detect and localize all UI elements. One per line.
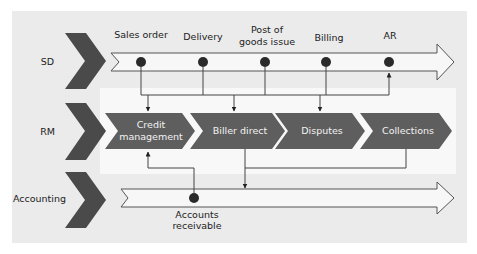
sd-event-dot (321, 57, 331, 67)
rm-step-label: management (119, 131, 183, 142)
accounting-event-label: receivable (172, 220, 221, 231)
sd-event-label: Billing (314, 32, 343, 43)
lane-label-accounting: Accounting (13, 193, 66, 204)
rm-step-label: Credit (137, 119, 166, 130)
sd-event-label: Post of (251, 24, 284, 35)
rm-step-label: Disputes (301, 125, 343, 136)
lane-label-rm: RM (40, 126, 55, 137)
sd-event-label: Sales order (114, 29, 168, 40)
sd-event-label: Delivery (183, 31, 223, 42)
sd-event-label: goods issue (239, 36, 295, 47)
sd-event-dot (384, 57, 394, 67)
process-diagram: SD RM Accounting Credit management Bille… (0, 0, 477, 254)
sd-event-label: AR (383, 30, 396, 41)
sd-event-dot (260, 57, 270, 67)
sd-event-dot (136, 57, 146, 67)
lane-label-sd: SD (41, 56, 54, 67)
rm-step-label: Collections (382, 125, 434, 136)
rm-step-label: Biller direct (213, 125, 268, 136)
accounting-event-dot (189, 193, 199, 203)
accounting-event-label: Accounts (175, 209, 218, 220)
sd-event-dot (198, 57, 208, 67)
